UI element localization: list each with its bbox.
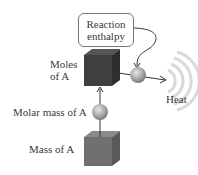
moles-label: Moles of A — [50, 58, 78, 82]
mass-cube — [84, 131, 120, 166]
mass-label: Mass of A — [29, 143, 74, 155]
enthalpy-arrow — [132, 28, 156, 66]
molar-mass-sphere — [92, 104, 108, 120]
reaction-enthalpy-line1: Reaction — [79, 18, 133, 30]
molar-mass-label: Molar mass of A — [13, 106, 87, 118]
enthalpy-sphere — [130, 67, 146, 83]
reaction-enthalpy-line2: enthalpy — [79, 30, 133, 42]
heat-label: Heat — [166, 93, 187, 105]
reaction-enthalpy-box: Reaction enthalpy — [78, 13, 134, 47]
moles-cube — [84, 49, 120, 86]
